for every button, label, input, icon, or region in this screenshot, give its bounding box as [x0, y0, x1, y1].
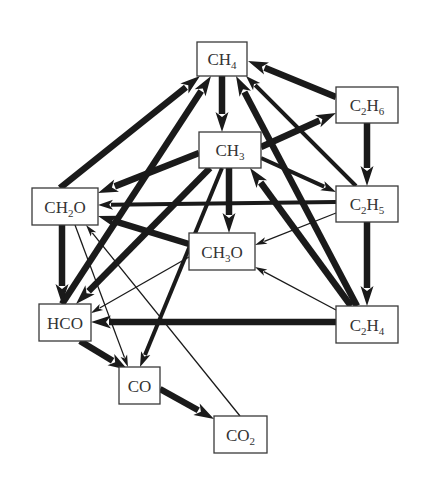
- label-text: CO: [128, 377, 152, 396]
- label-subscript: 4: [231, 59, 237, 71]
- label-text: HCO: [47, 314, 83, 333]
- label-subscript: 5: [379, 204, 385, 216]
- label-text: CH: [44, 198, 68, 217]
- node-ch3: CH3: [199, 132, 261, 168]
- label-subscript: 3: [239, 150, 245, 162]
- edge-ch2o-to-ch4: [60, 76, 200, 188]
- edge-ch3-to-ch3o: [223, 168, 236, 233]
- nodes-layer: CH4C2H6CH3C2H5CH2OCH3OHCOC2H4COCO2: [32, 42, 398, 453]
- label-text: CH: [207, 50, 231, 69]
- node-c2h5: C2H5: [336, 186, 398, 222]
- node-c2h6: C2H6: [336, 87, 398, 123]
- label-text: O: [73, 198, 85, 217]
- edge-c2h4-to-hco: [91, 316, 336, 329]
- node-ch4: CH4: [197, 42, 247, 76]
- node-ch3o: CH3O: [189, 233, 255, 270]
- edge-ch3-to-c2h5: [261, 158, 336, 192]
- label-subscript: 2: [250, 435, 256, 447]
- label-text: C: [350, 96, 361, 115]
- reaction-network-diagram: CH4C2H6CH3C2H5CH2OCH3OHCOC2H4COCO2: [0, 0, 426, 482]
- arrowhead-icon: [91, 316, 111, 329]
- label-subscript: 4: [379, 325, 385, 337]
- edge-line: [160, 389, 198, 410]
- label-text: CH: [215, 141, 239, 160]
- node-co2: CO2: [214, 416, 267, 453]
- edge-hco-to-co: [80, 341, 128, 370]
- label-text: H: [367, 316, 379, 335]
- label-text: H: [367, 96, 379, 115]
- arrowhead-icon: [255, 267, 267, 276]
- node-label: CH2O: [44, 198, 85, 219]
- arrowhead-icon: [361, 166, 374, 186]
- arrowhead-icon: [361, 286, 374, 306]
- node-label: CO: [128, 377, 152, 396]
- arrowhead-icon: [98, 200, 113, 210]
- edge-co-to-co2: [160, 389, 214, 419]
- edge-line: [265, 68, 336, 97]
- edge-c2h5-to-c2h4: [361, 222, 374, 306]
- node-co: CO: [119, 367, 160, 404]
- edge-line: [111, 202, 336, 205]
- label-text: O: [230, 243, 242, 262]
- arrowhead-icon: [216, 112, 229, 132]
- label-text: CO: [226, 426, 250, 445]
- edge-ch4-to-ch3: [216, 76, 229, 132]
- label-text: C: [350, 316, 361, 335]
- label-text: CH: [201, 243, 225, 262]
- label-text: H: [367, 195, 379, 214]
- node-hco: HCO: [39, 304, 91, 341]
- label-subscript: 6: [379, 105, 385, 117]
- node-c2h4: C2H4: [336, 306, 398, 343]
- edge-c2h6-to-c2h5: [361, 123, 374, 186]
- label-text: C: [350, 195, 361, 214]
- arrowhead-icon: [223, 213, 236, 233]
- edge-line: [264, 272, 336, 310]
- node-label: HCO: [47, 314, 83, 333]
- node-label: CH3O: [201, 243, 242, 264]
- edge-line: [80, 341, 113, 361]
- arrowhead-icon: [91, 304, 103, 313]
- node-ch2o: CH2O: [32, 188, 98, 225]
